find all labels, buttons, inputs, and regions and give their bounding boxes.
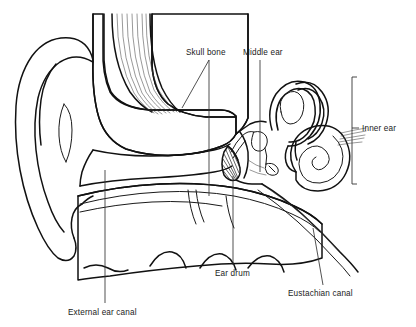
label-inner-ear: Inner ear	[362, 124, 396, 133]
label-skull-bone: Skull bone	[186, 48, 226, 57]
label-middle-ear: Middle ear	[243, 48, 283, 57]
label-ear-drum: Ear drum	[215, 269, 250, 278]
label-external-ear-canal: External ear canal	[68, 308, 137, 317]
ear-anatomy-diagram: Skull bone Middle ear Inner ear Ear drum…	[0, 0, 416, 327]
ear-anatomy-illustration: Skull bone Middle ear Inner ear Ear drum…	[0, 0, 416, 327]
label-eustachian-canal: Eustachian canal	[288, 289, 353, 298]
